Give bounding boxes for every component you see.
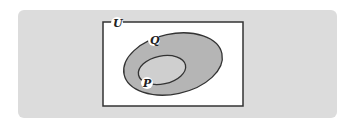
set-p-label: P (142, 77, 152, 90)
set-q-label: Q (150, 34, 160, 47)
universe-label: U (113, 17, 124, 30)
venn-diagram: U Q P (0, 0, 354, 127)
